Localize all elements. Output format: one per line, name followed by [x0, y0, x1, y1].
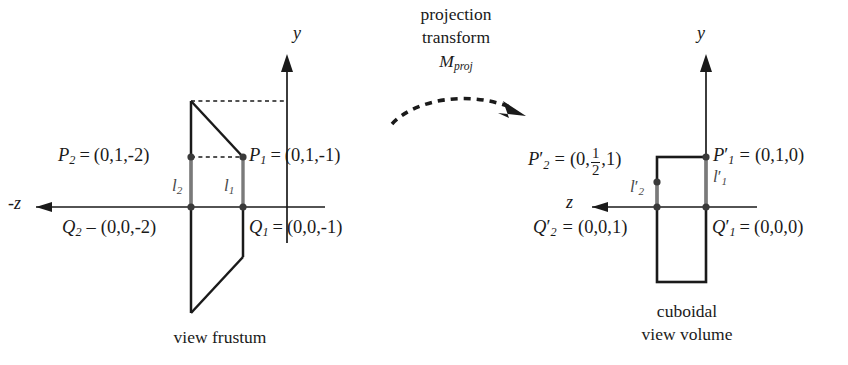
Q2p-symbol: Q: [533, 217, 546, 237]
right-y-axis-label: y: [697, 24, 705, 42]
Q2p-equals: =: [557, 217, 573, 237]
right-z-axis-label: z: [566, 193, 573, 211]
label-Q2-prime: Q′2=(0,0,1): [533, 218, 627, 237]
projection-transform-figure: projection transform Mproj y -z P2=(0,1,…: [0, 0, 848, 365]
P2p-equals: =: [549, 149, 564, 169]
label-P2-prime: P′2=(0,12,1): [528, 146, 621, 178]
P2p-fraction-denominator: 2: [591, 163, 600, 178]
matrix-subscript: proj: [454, 60, 473, 72]
P1-symbol: P: [249, 145, 260, 165]
Q1p-coords: (0,0,0): [750, 217, 803, 237]
left-z-axis: [36, 202, 325, 212]
Q1p-equals: =: [736, 217, 750, 237]
P2-coords: (0,1,-2): [90, 145, 149, 165]
label-P1: P1=(0,1,-1): [249, 146, 340, 165]
label-Q1: Q1=(0,0,-1): [249, 218, 342, 237]
left-y-axis-label: y: [293, 24, 301, 42]
P2p-fraction-numerator: 1: [591, 146, 600, 161]
label-l2: l2: [172, 177, 182, 194]
label-Q1-prime: Q′1=(0,0,0): [712, 218, 803, 237]
P2p-fraction: 12: [591, 146, 600, 178]
Q2p-subscript: 2: [550, 225, 556, 239]
l2-subscript: 2: [177, 184, 183, 196]
Q2p-coords: (0,0,1): [573, 217, 627, 237]
matrix-M: M: [439, 51, 454, 71]
P1-equals: =: [266, 145, 280, 165]
point-dot-Q1: [239, 203, 246, 210]
P1p-coords: (0,1,0): [750, 145, 804, 165]
P2-symbol: P: [58, 145, 69, 165]
l1p-subscript: 1: [721, 175, 727, 187]
Q1-equals: =: [268, 217, 282, 237]
label-l2-prime: l′2: [630, 178, 644, 195]
right-diagram-caption-line2: view volume: [592, 326, 782, 344]
P2p-coords-post: ,1): [601, 149, 621, 169]
point-dot-Q1-prime: [702, 203, 709, 210]
right-diagram-caption-line1: cuboidal: [592, 303, 782, 321]
right-z-axis: [592, 202, 757, 212]
Q1-symbol: Q: [249, 217, 262, 237]
Q1p-symbol: Q: [712, 217, 725, 237]
cuboidal-view-volume-outline: [657, 157, 706, 282]
P2p-coords-pre: (0,: [565, 149, 590, 169]
Q2-symbol: Q: [62, 217, 75, 237]
Q2-coords: (0,0,-2): [96, 217, 156, 237]
transform-annotation-line1: projection: [366, 6, 546, 24]
P1-coords: (0,1,-1): [281, 145, 340, 165]
label-l1: l1: [224, 177, 234, 194]
P2-equals: =: [75, 145, 89, 165]
transform-matrix-symbol: Mproj: [366, 53, 546, 71]
point-dot-P2-prime: [653, 178, 660, 185]
transform-arrow-icon: [392, 99, 526, 124]
Q1-coords: (0,0,-1): [283, 217, 342, 237]
label-l1-prime: l′1: [713, 168, 727, 185]
point-dot-P1-prime: [702, 153, 709, 160]
P1p-symbol: P: [713, 145, 724, 165]
Q1p-subscript: 1: [729, 225, 735, 239]
point-dot-Q2-prime: [653, 203, 660, 210]
P2p-symbol: P: [528, 149, 539, 169]
point-dot-Q2: [187, 203, 194, 210]
label-P2: P2=(0,1,-2): [58, 146, 149, 165]
l1-subscript: 1: [229, 184, 235, 196]
Q2-equals: –: [81, 217, 95, 237]
label-P1-prime: P′1=(0,1,0): [713, 146, 804, 165]
l2p-subscript: 2: [638, 185, 644, 197]
left-diagram-caption: view frustum: [120, 329, 320, 347]
transform-annotation-line2: transform: [366, 29, 546, 47]
point-dot-P1: [239, 153, 246, 160]
left-z-axis-label: -z: [8, 194, 21, 212]
point-dot-P2: [187, 153, 194, 160]
label-Q2: Q2–(0,0,-2): [62, 218, 156, 237]
P1p-equals: =: [734, 145, 749, 165]
